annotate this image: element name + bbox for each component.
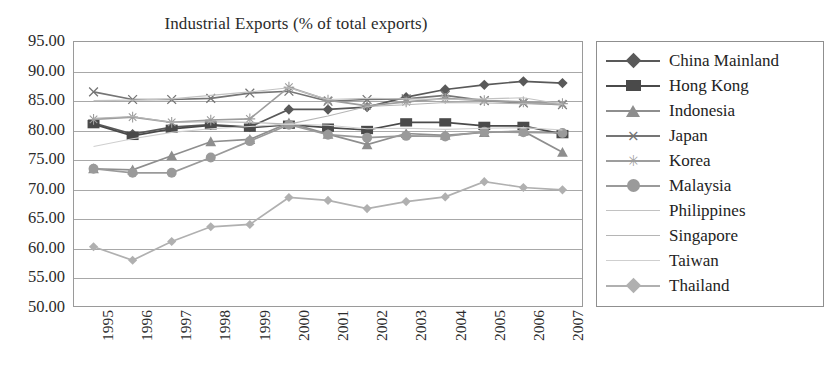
x-axis-tick-label: 1995 [99,310,117,341]
data-point-marker [284,104,294,114]
data-point-marker [323,130,333,140]
data-point-marker [557,78,567,88]
legend-item-china-mainland[interactable]: China Mainland [597,48,823,73]
data-point-marker [128,256,137,265]
y-axis-tick-label: 70.00 [28,179,65,199]
data-point-marker [167,237,176,246]
y-axis-tick-label: 55.00 [28,267,65,287]
legend-key-swatch [606,51,660,71]
y-axis-tick-label: 75.00 [28,149,65,169]
data-point-marker [89,242,98,251]
legend-item-japan[interactable]: ×Japan [597,123,823,148]
data-point-marker [323,95,334,106]
legend-key-swatch: ✳ [606,151,660,171]
data-point-marker [401,131,411,141]
data-point-marker [439,118,451,126]
legend-item-malaysia[interactable]: Malaysia [597,173,823,198]
x-axis-tick-label: 2006 [530,310,548,341]
y-axis-tick-label: 85.00 [28,90,65,110]
data-point-marker [518,127,528,137]
x-axis-tick-label: 2002 [373,310,391,341]
legend-item-label: Japan [669,126,708,145]
data-point-marker [441,192,450,201]
y-axis-tick-label: 95.00 [28,31,65,51]
data-point-marker [206,153,216,163]
x-axis-tick-labels: 1995199619971998199920002001200220032004… [73,308,583,380]
legend-key-swatch [606,226,660,246]
legend-item-label: Taiwan [669,251,719,270]
legend-item-hong-kong[interactable]: Hong Kong [597,73,823,98]
x-axis-tick-label: 2005 [491,310,509,341]
legend-item-singapore[interactable]: Singapore [597,223,823,248]
legend-key-swatch [606,76,660,96]
series-line [94,182,563,261]
data-point-marker [206,222,215,231]
legend-item-label: Philippines [669,201,746,220]
y-axis-tick-labels: 95.0090.0085.0080.0075.0070.0065.0060.00… [0,41,69,307]
legend-marker-square [626,80,641,91]
x-axis-tick-label: 1996 [138,310,156,341]
data-point-marker [480,177,489,186]
data-point-marker [362,133,372,143]
legend-marker-diamond [625,53,641,69]
legend-item-korea[interactable]: ✳Korea [597,148,823,173]
data-point-marker [128,168,138,178]
legend-key-swatch [606,276,660,296]
data-point-marker [89,164,99,174]
legend-line [606,210,660,211]
chart-title: Industrial Exports (% of total exports) [0,14,592,34]
y-axis-tick-label: 65.00 [28,208,65,228]
legend-line [606,260,660,261]
legend-item-label: Korea [669,151,711,170]
legend-marker-triangle [626,105,640,117]
x-axis-tick-label: 2004 [452,310,470,341]
legend-item-indonesia[interactable]: Indonesia [597,98,823,123]
y-axis-tick-label: 60.00 [28,238,65,258]
x-axis-tick-label: 1999 [256,310,274,341]
data-point-marker [205,115,216,126]
legend-marker-circle [627,179,640,192]
legend-item-thailand[interactable]: Thailand [597,273,823,298]
data-point-marker [323,196,332,205]
y-axis-tick-label: 80.00 [28,120,65,140]
x-axis-tick-label: 2007 [569,310,587,341]
data-point-marker [284,82,295,93]
data-point-marker [244,123,256,131]
chart-screenshot: Industrial Exports (% of total exports) … [0,0,829,380]
data-point-marker [479,80,489,90]
legend-line [606,235,660,236]
legend-item-label: China Mainland [669,51,779,70]
legend-marker-diamond [625,278,641,294]
data-point-marker [557,147,568,157]
x-axis-tick-label: 1997 [177,310,195,341]
legend-key-swatch: × [606,126,660,146]
legend-item-label: Hong Kong [669,76,749,95]
legend-item-philippines[interactable]: Philippines [597,198,823,223]
series-thailand [89,177,567,265]
legend-key-swatch [606,201,660,221]
legend-item-taiwan[interactable]: Taiwan [597,248,823,273]
x-axis-tick-label: 2003 [412,310,430,341]
data-point-marker [558,185,567,194]
legend-item-label: Singapore [669,226,738,245]
data-point-marker [400,118,412,126]
data-point-marker [167,168,177,178]
legend-item-label: Indonesia [669,101,735,120]
x-axis-tick-label: 1998 [216,310,234,341]
data-point-marker [362,204,371,213]
data-point-marker [519,183,528,192]
legend: China MainlandHong KongIndonesia×Japan✳K… [596,41,824,307]
plot-area [73,41,583,307]
legend-key-swatch [606,251,660,271]
data-point-marker [245,136,255,146]
y-axis-tick-label: 50.00 [28,297,65,317]
legend-item-label: Malaysia [669,176,731,195]
data-point-marker [323,104,333,114]
x-axis-tick-label: 2000 [295,310,313,341]
data-point-marker [402,197,411,206]
x-axis-tick-label: 2001 [334,310,352,341]
data-point-marker [518,76,528,86]
data-point-marker [166,150,177,160]
legend-key-swatch [606,101,660,121]
data-series-layer [74,42,582,306]
